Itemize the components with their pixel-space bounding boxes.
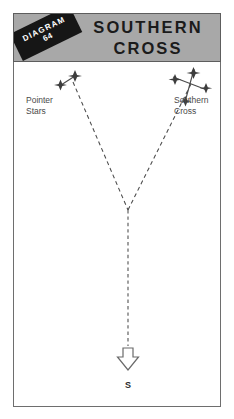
page-title-line2: CROSS	[76, 38, 220, 59]
pointer-stars-connector	[61, 76, 75, 85]
pointer-stars-label-line1: Pointer	[26, 95, 53, 106]
southern-cross-label-line1: Southern	[174, 95, 209, 106]
diagram-canvas: Pointer Stars Southern Cross S	[13, 62, 221, 407]
guide-lines-group	[73, 82, 191, 346]
cross-star-3-icon	[200, 83, 212, 93]
cross-star-2-icon	[187, 67, 201, 79]
page-title-line1: SOUTHERN	[76, 17, 220, 38]
pointer-star-1-icon	[54, 80, 67, 91]
southern-cross-label: Southern Cross	[174, 95, 209, 117]
pointer-stars-label-line2: Stars	[26, 106, 53, 117]
diagram-header: SOUTHERN CROSS DIAGRAM 64	[13, 13, 221, 62]
diagram-page: SOUTHERN CROSS DIAGRAM 64	[0, 0, 234, 419]
south-marker-label: S	[118, 380, 138, 390]
page-title: SOUTHERN CROSS	[76, 17, 220, 59]
south-arrow-icon	[118, 348, 139, 370]
southern-cross-label-line2: Cross	[174, 106, 209, 117]
pointer-stars-label: Pointer Stars	[26, 95, 53, 117]
diagram-badge: DIAGRAM 64	[16, 13, 78, 62]
pointer-star-2-icon	[68, 70, 82, 82]
diagram-badge-tag: DIAGRAM 64	[13, 13, 82, 61]
pointer-stars-group	[54, 70, 82, 91]
cross-star-1-icon	[169, 74, 182, 85]
pointer-bisector-line	[73, 82, 128, 210]
